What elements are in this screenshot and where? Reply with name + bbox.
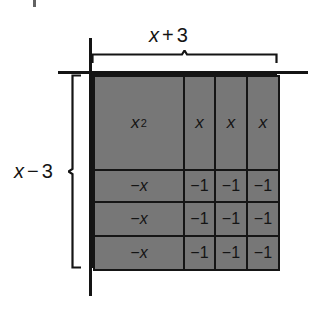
width-brace xyxy=(91,50,278,64)
tile-neg-one-r2-c3: −1 xyxy=(246,201,280,237)
tile-label: x xyxy=(131,113,140,133)
tile-label: −1 xyxy=(190,177,209,195)
tile-label: −1 xyxy=(222,210,241,228)
scan-artifact xyxy=(33,0,36,7)
tile-label: −1 xyxy=(222,177,241,195)
tile-neg-one-r3-c2: −1 xyxy=(214,235,248,271)
tile-label: −1 xyxy=(254,244,273,262)
tile-neg-one-r1-c3: −1 xyxy=(246,169,280,203)
tile-neg-one-r2-c1: −1 xyxy=(183,201,216,237)
height-constant: 3 xyxy=(42,160,53,182)
tile-neg-x-r1-c0: −x xyxy=(93,169,185,203)
tile-neg-one-r2-c2: −1 xyxy=(214,201,248,237)
tile-label: −x xyxy=(130,177,148,195)
width-variable: x xyxy=(149,24,159,46)
tile-label: −1 xyxy=(254,210,273,228)
height-variable: x xyxy=(14,160,24,182)
tile-neg-one-r1-c1: −1 xyxy=(183,169,216,203)
tile-label: −1 xyxy=(222,244,241,262)
tile-x-r0-c3: x xyxy=(246,75,280,171)
tile-label: x xyxy=(227,113,236,133)
tile-label: −x xyxy=(130,210,148,228)
tile-x-squared-r0-c0: x2 xyxy=(93,75,185,171)
tile-neg-one-r3-c3: −1 xyxy=(246,235,280,271)
tile-neg-one-r1-c2: −1 xyxy=(214,169,248,203)
tile-grid: x2xxx−x−1−1−1−x−1−1−1−x−1−1−1 xyxy=(92,74,277,268)
height-brace xyxy=(68,74,82,269)
tile-label: −1 xyxy=(254,177,273,195)
tile-x-r0-c1: x xyxy=(183,75,216,171)
tile-label: x xyxy=(195,113,204,133)
height-operator: − xyxy=(27,160,39,182)
algebra-tiles-figure: x+3 x−3 x2xxx−x−1−1−1−x−1−1−1−x−1−1−1 xyxy=(0,0,320,311)
tile-label: −x xyxy=(130,244,148,262)
tile-neg-x-r3-c0: −x xyxy=(93,235,185,271)
width-operator: + xyxy=(162,24,174,46)
tile-label: x xyxy=(259,113,268,133)
tile-label: −1 xyxy=(190,244,209,262)
tile-label: −1 xyxy=(190,210,209,228)
width-constant: 3 xyxy=(177,24,188,46)
width-label: x+3 xyxy=(149,24,188,47)
tile-neg-one-r3-c1: −1 xyxy=(183,235,216,271)
tile-x-r0-c2: x xyxy=(214,75,248,171)
tile-neg-x-r2-c0: −x xyxy=(93,201,185,237)
height-label: x−3 xyxy=(14,160,53,183)
